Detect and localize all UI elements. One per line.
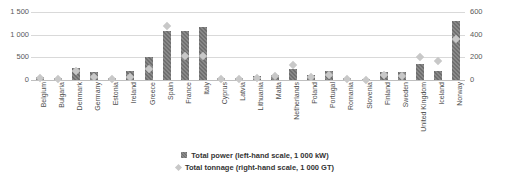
category-slot [230, 12, 248, 80]
series-layer [31, 12, 465, 80]
x-axis-label: Spain [167, 82, 174, 100]
legend-label: Total power (left-hand scale, 1 000 kW) [191, 151, 328, 160]
x-axis-label-slot: Denmark [67, 82, 85, 140]
bar-total-power [434, 71, 442, 80]
y-axis-left-tick: 500 [16, 53, 29, 61]
category-slot [194, 12, 212, 80]
x-axis-label: Sweden [402, 82, 409, 107]
category-slot [212, 12, 230, 80]
plot-area [31, 12, 465, 80]
x-axis-label-slot: Greece [140, 82, 158, 140]
category-slot [357, 12, 375, 80]
x-axis-label: Belgium [40, 82, 47, 107]
x-axis-label-slot: Poland [302, 82, 320, 140]
category-slot [103, 12, 121, 80]
x-axis-label: Iceland [438, 82, 445, 105]
x-axis-label: Lithuania [257, 82, 264, 110]
x-axis-label: Latvia [239, 82, 246, 101]
category-slot [429, 12, 447, 80]
category-slot [67, 12, 85, 80]
x-axis-label: Netherlands [293, 82, 300, 120]
y-axis-left-tick: 1 500 [10, 8, 29, 16]
x-axis-label: France [185, 82, 192, 104]
x-axis-label-slot: Sweden [393, 82, 411, 140]
category-slot [411, 12, 429, 80]
marker-total-tonnage [416, 53, 424, 61]
y-axis-left-tick: 0 [25, 76, 29, 84]
chart-container: 05001 0001 500 0200400600 BelgiumBulgari… [0, 0, 510, 191]
category-slot [393, 12, 411, 80]
x-axis-label-slot: Estonia [103, 82, 121, 140]
marker-total-tonnage [289, 61, 297, 69]
category-slot [49, 12, 67, 80]
x-axis-label: Poland [311, 82, 318, 104]
category-slot [338, 12, 356, 80]
marker-total-tonnage [434, 57, 442, 65]
category-slot [31, 12, 49, 80]
x-axis-label-slot: Romania [338, 82, 356, 140]
x-axis-label-slot: Bulgaria [49, 82, 67, 140]
y-axis-right-tick: 600 [470, 8, 483, 16]
x-axis-labels: BelgiumBulgariaDenmarkGermanyEstoniaIrel… [31, 82, 465, 140]
category-slot [447, 12, 465, 80]
category-slot [140, 12, 158, 80]
category-slot [121, 12, 139, 80]
x-axis-label: Ireland [130, 82, 137, 103]
x-axis-label-slot: France [176, 82, 194, 140]
x-axis-label-slot: Netherlands [284, 82, 302, 140]
x-axis-label-slot: Cyprus [212, 82, 230, 140]
x-axis-label-slot: Slovenia [357, 82, 375, 140]
x-axis-label: Denmark [76, 82, 83, 110]
bar-total-power [452, 21, 460, 80]
y-axis-left-tick: 1 000 [10, 31, 29, 39]
bar-total-power [289, 69, 297, 80]
x-axis-label: Bulgaria [58, 82, 65, 108]
x-axis-label: Cyprus [221, 82, 228, 104]
x-axis-label-slot: Lithuania [248, 82, 266, 140]
y-axis-right-tick: 400 [470, 31, 483, 39]
x-axis-label: Germany [94, 82, 101, 111]
category-slot [284, 12, 302, 80]
bar-total-power [163, 31, 171, 80]
x-axis-label-slot: Norway [447, 82, 465, 140]
category-slot [158, 12, 176, 80]
x-axis-label: Romania [347, 82, 354, 110]
category-slot [85, 12, 103, 80]
category-slot [176, 12, 194, 80]
legend-label: Total tonnage (right-hand scale, 1 000 G… [185, 163, 334, 172]
category-slot [302, 12, 320, 80]
x-axis-label: Norway [456, 82, 463, 106]
x-axis-label: Estonia [112, 82, 119, 105]
x-axis-label-slot: Germany [85, 82, 103, 140]
legend-item[interactable]: Total power (left-hand scale, 1 000 kW) [0, 150, 510, 162]
x-axis-label-slot: Portugal [320, 82, 338, 140]
chart-legend: Total power (left-hand scale, 1 000 kW)T… [0, 150, 510, 174]
x-axis-label-slot: Ireland [121, 82, 139, 140]
x-axis-label-slot: Spain [158, 82, 176, 140]
x-axis-label-slot: Belgium [31, 82, 49, 140]
x-axis-label: Finland [384, 82, 391, 105]
marker-total-tonnage [162, 21, 170, 29]
y-axis-right-tick: 0 [470, 76, 474, 84]
x-axis-label: Slovenia [366, 82, 373, 109]
x-axis-label-slot: United Kingdom [411, 82, 429, 140]
x-axis-label-slot: Italy [194, 82, 212, 140]
x-axis-label: Portugal [329, 82, 336, 108]
x-axis-label-slot: Iceland [429, 82, 447, 140]
y-axis-right-tick: 200 [470, 53, 483, 61]
bar-total-power [416, 64, 424, 80]
x-axis-label: United Kingdom [420, 82, 427, 132]
x-axis-label-slot: Finland [375, 82, 393, 140]
x-axis-label: Italy [203, 82, 210, 95]
x-axis-label-slot: Latvia [230, 82, 248, 140]
category-slot [375, 12, 393, 80]
category-slot [248, 12, 266, 80]
x-axis-label: Greece [149, 82, 156, 105]
legend-item[interactable]: Total tonnage (right-hand scale, 1 000 G… [0, 162, 510, 174]
category-slot [320, 12, 338, 80]
square-swatch-icon [181, 152, 187, 158]
x-axis-label: Malta [275, 82, 282, 99]
diamond-swatch-icon [175, 163, 182, 170]
category-slot [266, 12, 284, 80]
x-axis-label-slot: Malta [266, 82, 284, 140]
